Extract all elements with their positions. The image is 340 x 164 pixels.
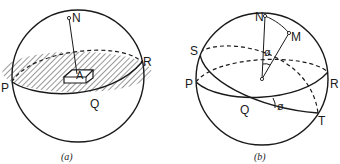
label-r-b: R <box>330 77 339 91</box>
label-a: A <box>76 69 84 81</box>
point-n-b <box>263 14 266 17</box>
label-n-a: N <box>72 11 81 25</box>
point-n-a <box>67 16 70 19</box>
label-n-b: N <box>255 10 264 24</box>
point-center-b <box>260 77 263 80</box>
label-r-a: R <box>143 55 152 69</box>
figure-b: N M ø S P R Q ø T (b) <box>185 10 339 163</box>
label-p-b: P <box>185 77 193 91</box>
sphere-diagrams: N A R P Q (a) N M ø S P R Q ø T <box>0 0 340 164</box>
label-q-b: Q <box>240 103 249 117</box>
angle-arc-top <box>263 64 270 65</box>
angle-arc-bottom <box>273 98 275 108</box>
great-circle-sqt-front <box>200 52 318 113</box>
label-q-a: Q <box>90 97 99 111</box>
arc-n-m <box>265 16 289 33</box>
caption-a: (a) <box>61 151 73 163</box>
label-p-a: P <box>1 81 9 95</box>
label-m: M <box>291 30 301 44</box>
figure-a: N A R P Q (a) <box>1 10 152 163</box>
caption-b: (b) <box>254 151 266 163</box>
label-t: T <box>318 114 326 128</box>
label-angle-bottom: ø <box>277 100 284 112</box>
label-angle-top: ø <box>264 46 271 58</box>
label-s: S <box>190 44 198 58</box>
